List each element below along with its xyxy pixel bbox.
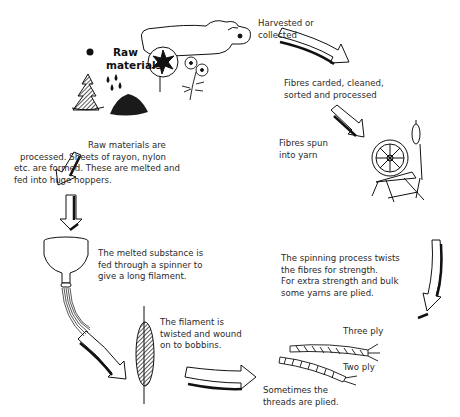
label-carded: Fibres carded, cleaned, sorted and proce… xyxy=(284,78,384,101)
label-spun: Fibres spun into yarn xyxy=(279,138,328,161)
textile-process-diagram: Raw materials Harvested or collected Fib… xyxy=(0,0,460,417)
label-raw-processed: Raw materials are processed. Sheets of r… xyxy=(14,140,180,186)
bobbin-icon xyxy=(136,306,154,404)
diagram-artwork xyxy=(0,0,460,417)
arrow-processed-to-hopper xyxy=(60,195,82,230)
arrow-carded-to-spun xyxy=(331,105,364,137)
label-filament-wound: The filament is twisted and wound on to … xyxy=(160,317,242,352)
spinning-wheel-icon xyxy=(372,120,424,202)
tree-icon xyxy=(72,74,104,110)
label-three-ply: Three ply xyxy=(343,326,383,338)
label-two-ply: Two ply xyxy=(343,362,375,374)
label-harvested: Harvested or collected xyxy=(258,18,314,41)
coal-pile-icon xyxy=(110,94,148,116)
arrow-bobbin-to-plied xyxy=(185,365,256,389)
three-ply-yarn-icon xyxy=(290,344,380,361)
hopper-icon xyxy=(44,237,90,336)
arrow-wheel-to-spinning xyxy=(418,240,442,318)
oil-drops-icon xyxy=(107,74,122,91)
flax-flower-icon xyxy=(182,57,208,100)
label-plied: Sometimes the threads are plied. xyxy=(263,385,339,408)
label-melted-substance: The melted substance is fed through a sp… xyxy=(98,248,203,283)
raw-materials-title: Raw materials xyxy=(106,46,162,72)
raw-materials-bullet-icon xyxy=(87,49,94,56)
label-spinning-process: The spinning process twists the fibres f… xyxy=(281,253,400,299)
arrow-filament-to-bobbin xyxy=(78,331,126,379)
